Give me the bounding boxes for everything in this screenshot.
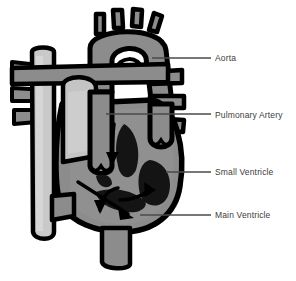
pulmonary-trunk-highlight (68, 90, 90, 154)
heart-anatomy-illustration (0, 0, 296, 281)
heart-diagram-figure: Aorta Pulmonary Artery Small Ventricle M… (0, 0, 296, 281)
aorta-branch-3-icon (132, 9, 142, 27)
aorta-branch-1-icon (96, 14, 104, 34)
callout-label-small-ventricle: Small Ventricle (215, 167, 273, 177)
aorta-branch-4-icon (149, 13, 162, 32)
callout-label-aorta: Aorta (215, 53, 236, 63)
callout-label-pulmonary-artery: Pulmonary Artery (215, 110, 283, 120)
left-inlet-stub-shape (52, 194, 74, 220)
aorta-branch-2-icon (113, 10, 123, 28)
callout-label-main-ventricle: Main Ventricle (215, 210, 271, 220)
lower-outlet-shape (102, 228, 130, 268)
ascending-limb-shape (90, 92, 112, 174)
